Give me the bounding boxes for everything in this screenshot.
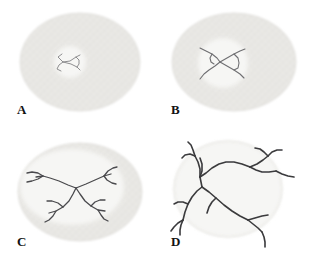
- panel-label-d: D: [171, 235, 180, 248]
- inner-region-b: [198, 38, 248, 88]
- crack-segment-d-18: [262, 232, 265, 247]
- panel-label-a: A: [17, 103, 26, 116]
- panel-label-c: C: [17, 235, 26, 248]
- panel-c: C: [0, 131, 155, 264]
- panel-a: A: [0, 0, 155, 133]
- inner-region-a: [54, 46, 86, 78]
- panel-label-b: B: [171, 103, 180, 116]
- crack-segment-d-6: [268, 150, 282, 156]
- panel-b: B: [154, 0, 309, 133]
- figure-root: A B C D: [0, 0, 309, 266]
- inner-region-d: [174, 141, 282, 237]
- panel-d: D: [154, 131, 309, 264]
